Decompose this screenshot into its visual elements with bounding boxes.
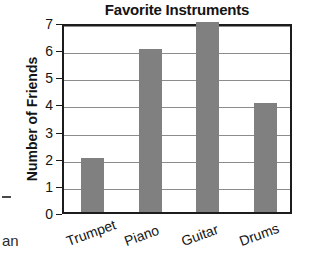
- y-tick-label: 1: [33, 180, 53, 194]
- y-tick-label: 3: [33, 126, 53, 140]
- y-axis-title: Number of Friends: [24, 39, 40, 199]
- scan-fragment-dash: [2, 196, 11, 198]
- gridline: [64, 26, 290, 27]
- x-tick-label: Guitar: [179, 221, 220, 249]
- y-tick-label: 2: [33, 153, 53, 167]
- gridline: [64, 53, 290, 54]
- bar: [139, 49, 162, 212]
- bar: [254, 103, 277, 212]
- y-tick-label: 5: [33, 71, 53, 85]
- scan-fragment-text: an: [2, 232, 19, 249]
- y-tick-label: 6: [33, 44, 53, 58]
- y-tick-label: 4: [33, 98, 53, 112]
- bar: [81, 158, 104, 212]
- x-tick-label: Piano: [122, 222, 161, 249]
- y-tick-mark: [56, 214, 62, 215]
- gridline: [64, 80, 290, 81]
- y-tick-label: 0: [33, 207, 53, 221]
- bar-chart-figure: Favorite Instruments Number of Friends 7…: [0, 0, 311, 257]
- y-tick-label: 7: [33, 17, 53, 31]
- x-tick-label: Drums: [237, 220, 281, 249]
- bar: [196, 22, 219, 212]
- plot-area: [62, 24, 292, 214]
- chart-title: Favorite Instruments: [62, 1, 292, 18]
- x-tick-label: Trumpet: [64, 216, 118, 249]
